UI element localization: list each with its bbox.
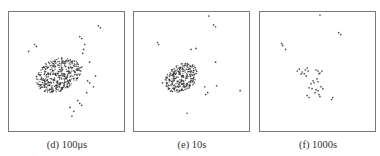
particle-scatter-d <box>9 12 124 131</box>
caption-e: (e) 10s <box>130 139 254 151</box>
snapshot-panel-d <box>8 11 125 132</box>
particle-scatter-f <box>260 12 375 131</box>
caption-f: (f) 1000s <box>256 139 380 151</box>
caption-d: (d) 100μs <box>5 139 129 151</box>
snapshot-panel-f <box>259 11 376 132</box>
particle-scatter-e <box>134 12 249 131</box>
snapshot-panel-e <box>133 11 250 132</box>
